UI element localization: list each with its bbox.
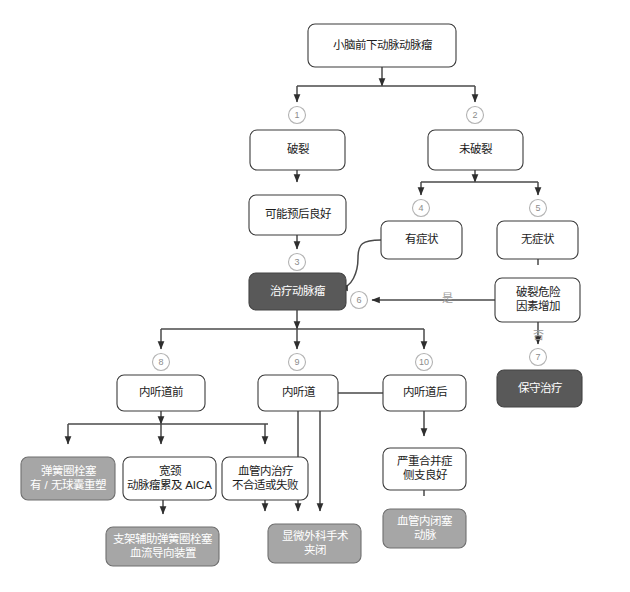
node-severe-comp[interactable]: 严重合并症侧支良好 <box>383 448 466 490</box>
step-badge-4: 4 <box>413 200 430 217</box>
node-label: 夹闭 <box>304 544 326 556</box>
step-badge-8: 8 <box>153 354 170 371</box>
node-symptomatic[interactable]: 有症状 <box>381 221 462 259</box>
step-badge-7: 7 <box>530 349 547 366</box>
badge-label: 7 <box>535 352 540 362</box>
step-badge-10: 10 <box>416 354 433 371</box>
badge-label: 5 <box>535 203 540 213</box>
badge-label: 8 <box>158 357 163 367</box>
node-label: 严重合并症 <box>397 454 453 467</box>
node-label: 因素增加 <box>516 299 560 312</box>
node-label: 有 / 无球囊重塑 <box>30 478 106 491</box>
step-badge-2: 2 <box>467 107 484 124</box>
node-label: 弹簧圈栓塞 <box>41 464 97 477</box>
node-post-iac[interactable]: 内听道后 <box>383 375 466 411</box>
edge-label-yes: 是 <box>442 292 453 304</box>
node-pre-iac[interactable]: 内听道前 <box>117 375 205 411</box>
badge-label: 6 <box>356 295 361 305</box>
node-treat[interactable]: 治疗动脉瘤 <box>249 273 346 310</box>
badge-label: 3 <box>294 257 299 267</box>
node-endo-occl[interactable]: 血管内闭塞动脉 <box>383 509 466 548</box>
node-label: 内听道后 <box>403 385 447 398</box>
node-label: 不合适或失败 <box>232 478 299 491</box>
node-iac[interactable]: 内听道 <box>258 375 338 411</box>
node-label: 有症状 <box>405 232 439 245</box>
step-badge-9: 9 <box>289 354 306 371</box>
node-label: 支架辅助弹簧圈栓塞 <box>113 532 213 545</box>
node-label: 治疗动脉瘤 <box>270 284 326 297</box>
node-label: 保守治疗 <box>518 381 562 394</box>
node-good-prog[interactable]: 可能预后良好 <box>249 195 346 235</box>
node-label: 血流导向装置 <box>130 546 196 559</box>
node-label: 无症状 <box>521 232 555 245</box>
node-asympt[interactable]: 无症状 <box>497 221 578 259</box>
node-label: 小脑前下动脉动脉瘤 <box>333 38 433 51</box>
step-badge-3: 3 <box>289 254 306 271</box>
node-label: 侧支良好 <box>403 468 448 481</box>
node-label: 可能预后良好 <box>265 207 332 220</box>
node-label: 破裂危险 <box>516 285 561 298</box>
node-label: 显微外科手术 <box>282 529 349 542</box>
step-badge-6: 6 <box>351 292 368 309</box>
node-label: 血管内治疗 <box>238 464 293 477</box>
step-badge-5: 5 <box>530 200 547 217</box>
node-unruptured[interactable]: 未破裂 <box>428 130 523 170</box>
node-label: 未破裂 <box>459 142 493 155</box>
flowchart-svg: 小脑前下动脉动脉瘤破裂未破裂可能预后良好有症状无症状破裂危险因素增加治疗动脉瘤保… <box>0 0 630 592</box>
node-root[interactable]: 小脑前下动脉动脉瘤 <box>308 24 456 67</box>
flowchart-canvas: 小脑前下动脉动脉瘤破裂未破裂可能预后良好有症状无症状破裂危险因素增加治疗动脉瘤保… <box>0 0 630 592</box>
node-label: 宽颈 <box>159 464 182 477</box>
node-coiling[interactable]: 弹簧圈栓塞有 / 无球囊重塑 <box>21 457 115 500</box>
edge-label-no: 否 <box>533 329 544 341</box>
badge-label: 9 <box>294 357 299 367</box>
nodes-layer: 小脑前下动脉动脉瘤破裂未破裂可能预后良好有症状无症状破裂危险因素增加治疗动脉瘤保… <box>21 24 582 566</box>
step-badge-1: 1 <box>289 107 306 124</box>
node-ruptured[interactable]: 破裂 <box>250 130 345 170</box>
badge-label: 4 <box>418 203 423 213</box>
node-endo-fail[interactable]: 血管内治疗不合适或失败 <box>222 457 308 500</box>
node-stent[interactable]: 支架辅助弹簧圈栓塞血流导向装置 <box>106 527 219 566</box>
node-label: 破裂 <box>287 142 310 155</box>
node-risk-up[interactable]: 破裂危险因素增加 <box>495 278 580 322</box>
node-label: 内听道 <box>282 385 316 398</box>
badge-label: 10 <box>419 357 429 367</box>
badge-label: 2 <box>472 110 477 120</box>
node-label: 动脉 <box>414 528 437 541</box>
node-wide-neck[interactable]: 宽颈动脉瘤累及 AICA <box>123 457 216 500</box>
node-label: 血管内闭塞 <box>397 514 453 527</box>
node-micro-clip[interactable]: 显微外科手术夹闭 <box>268 524 361 563</box>
badge-label: 1 <box>294 110 299 120</box>
node-conservative[interactable]: 保守治疗 <box>497 370 582 407</box>
node-label: 动脉瘤累及 AICA <box>127 478 212 491</box>
node-label: 内听道前 <box>139 385 183 398</box>
